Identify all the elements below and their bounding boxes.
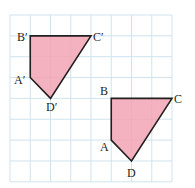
label-b: B bbox=[100, 84, 108, 98]
label-c: C bbox=[174, 92, 182, 106]
label-c-prime: C′ bbox=[93, 30, 104, 44]
original-quadrilateral bbox=[111, 98, 172, 161]
label-b-prime: B′ bbox=[17, 30, 28, 44]
image-quadrilateral bbox=[30, 36, 91, 99]
label-d: D bbox=[127, 166, 136, 180]
label-a: A bbox=[100, 140, 109, 154]
translation-diagram: B′ C′ A′ D′ B C A D bbox=[0, 0, 195, 188]
label-a-prime: A′ bbox=[14, 73, 26, 87]
label-d-prime: D′ bbox=[46, 100, 58, 114]
